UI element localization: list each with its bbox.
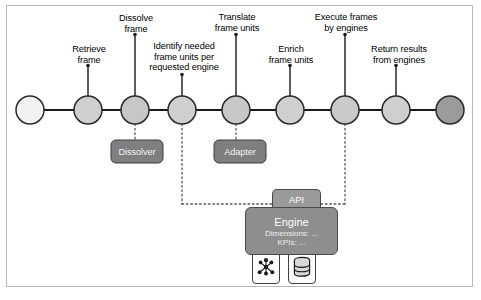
network-cluster-icon <box>252 250 280 284</box>
stage-label-execute: Execute frames by engines <box>301 12 391 33</box>
node-end <box>436 96 464 124</box>
stage-label-retrieve: Retrieve frame <box>52 44 126 65</box>
engine-kpis-line: KPIs: ... <box>277 238 305 247</box>
dissolver-box-label: Dissolver <box>111 140 163 163</box>
database-icon <box>288 250 316 284</box>
node-dissolve <box>121 96 149 124</box>
node-retrieve <box>74 96 102 124</box>
node-start <box>16 96 44 124</box>
stage-label-enrich: Enrich frame units <box>252 44 330 65</box>
diagram-canvas: Retrieve frame Dissolve frame Identify n… <box>0 0 481 300</box>
api-box[interactable]: API <box>272 189 321 208</box>
database-cylinder-glyph <box>292 256 312 278</box>
node-translate <box>222 96 250 124</box>
stage-label-return: Return results from engines <box>357 44 441 65</box>
stage-label-dissolve: Dissolve frame <box>99 13 173 34</box>
engine-box[interactable]: Engine Dimensions: ... KPIs: ... <box>245 207 338 255</box>
adapter-box-label: Adapter <box>214 140 266 163</box>
stage-label-identify: Identify needed frame units per requeste… <box>139 41 229 73</box>
label-leader-lines <box>86 33 398 96</box>
node-return <box>382 96 410 124</box>
node-enrich <box>276 96 304 124</box>
node-execute <box>331 96 359 124</box>
network-cluster-glyph <box>256 257 276 277</box>
engine-dimensions-line: Dimensions: ... <box>265 229 318 238</box>
engine-title: Engine <box>274 216 308 228</box>
pipeline-nodes <box>16 96 464 124</box>
node-identify <box>168 96 196 124</box>
api-label: API <box>289 194 304 205</box>
stage-label-translate: Translate frame units <box>197 12 277 33</box>
